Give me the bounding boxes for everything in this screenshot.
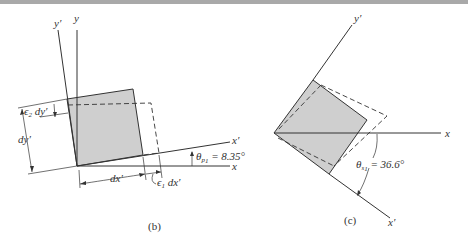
figure-c: y′ x x′ θs1 = 36.6° (c): [274, 12, 450, 228]
y-prime-label-b: y′: [53, 17, 62, 29]
theta-p1-label: θp1 = 8.35°: [196, 150, 246, 165]
x-label-c: x: [444, 127, 450, 139]
theta-s1-label: θs1 = 36.6°: [356, 158, 405, 173]
diagram-root: y′ y x′ x dy′ dx′ ϵ2 dy′ ϵ1 dx′ θp1 = 8.…: [0, 0, 468, 243]
caption-b: (b): [148, 220, 161, 233]
x-prime-label-b: x′: [231, 134, 240, 146]
dx-arrow-right: [139, 173, 145, 177]
e2-dy-label: ϵ2 dy′: [24, 105, 48, 119]
y-prime-label-c: y′: [353, 12, 362, 24]
x-prime-axis-c: [329, 174, 390, 218]
ext-dx-mid: [143, 157, 146, 180]
dy-arrow-bottom: [30, 166, 34, 172]
y-label-b: y: [73, 12, 79, 24]
y-prime-axis-c: [313, 25, 352, 80]
ext-line-bottom: [28, 166, 77, 174]
caption-c: (c): [344, 214, 357, 227]
e1-leader: [152, 174, 156, 184]
dx-label: dx′: [110, 172, 123, 184]
e1-dx-label: ϵ1 dx′: [157, 176, 181, 190]
e1-arrow: [156, 170, 161, 174]
dy-label: dy′: [18, 133, 31, 145]
strained-element-b: [67, 89, 143, 166]
dx-arrow-left: [80, 181, 86, 185]
strained-element-c: [274, 80, 367, 174]
figure-b: y′ y x′ x dy′ dx′ ϵ2 dy′ ϵ1 dx′ θp1 = 8.…: [18, 12, 246, 233]
strain-diagram: y′ y x′ x dy′ dx′ ϵ2 dy′ ϵ1 dx′ θp1 = 8.…: [0, 0, 468, 243]
angle-arrow-b: [190, 151, 194, 156]
ext-dx-left: [79, 170, 80, 188]
x-prime-label-c: x′: [387, 216, 396, 228]
